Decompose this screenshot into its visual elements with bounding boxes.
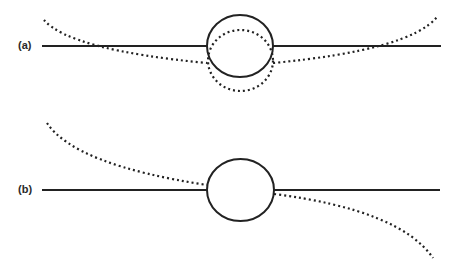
dotted-circle (208, 30, 273, 91)
panel-a (42, 15, 441, 91)
solid-circle (207, 15, 273, 77)
panel-b (42, 123, 440, 258)
dotted-curve-left (47, 123, 207, 185)
dotted-curve-right (273, 17, 437, 63)
dotted-curve-right (274, 194, 433, 258)
solid-circle (207, 159, 274, 221)
dotted-curve-left (44, 20, 207, 63)
diagram (0, 0, 456, 269)
